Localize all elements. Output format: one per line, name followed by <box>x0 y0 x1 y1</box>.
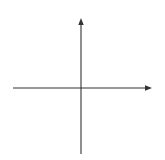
x-axis-arrow-icon <box>145 85 152 90</box>
y-axis-arrow-icon <box>78 18 83 25</box>
axes <box>13 18 152 154</box>
coordinate-graph <box>0 0 165 160</box>
